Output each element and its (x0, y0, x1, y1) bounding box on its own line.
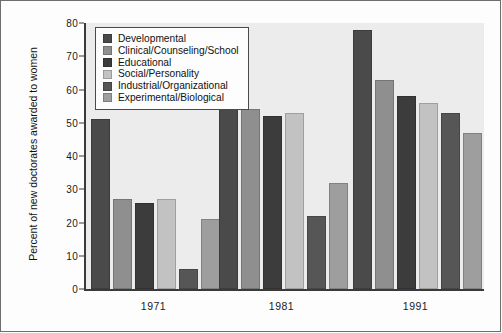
bar-group (353, 23, 482, 289)
bar (397, 96, 416, 289)
bar (179, 269, 198, 289)
legend-swatch-icon (103, 34, 112, 43)
legend: DevelopmentalClinical/Counseling/SchoolE… (95, 27, 249, 110)
y-tick-label: 70 (66, 51, 78, 62)
y-tick-label: 0 (72, 284, 78, 295)
bar (263, 116, 282, 289)
bar (91, 119, 110, 289)
y-tick-label: 50 (66, 117, 78, 128)
y-tick-label: 10 (66, 250, 78, 261)
legend-item: Experimental/Biological (103, 92, 239, 104)
legend-swatch-icon (103, 46, 112, 55)
bar (135, 203, 154, 289)
bar (419, 103, 438, 289)
legend-swatch-icon (103, 82, 112, 91)
y-tick-label: 40 (66, 151, 78, 162)
bar (329, 183, 348, 289)
y-tick-label: 30 (66, 184, 78, 195)
bar (157, 199, 176, 289)
y-tick-label: 20 (66, 217, 78, 228)
legend-label: Industrial/Organizational (118, 80, 228, 92)
bar (241, 109, 260, 289)
bar (113, 199, 132, 289)
legend-swatch-icon (103, 58, 112, 67)
legend-item: Social/Personality (103, 68, 239, 80)
legend-label: Social/Personality (118, 68, 199, 80)
bar (375, 80, 394, 289)
x-axis: 197119811991 (84, 291, 484, 321)
x-tick-label: 1971 (141, 300, 166, 312)
legend-label: Experimental/Biological (118, 92, 224, 104)
y-axis-label: Percent of new doctorates awarded to wom… (27, 29, 39, 279)
y-tick-label: 80 (66, 18, 78, 29)
legend-label: Clinical/Counseling/School (118, 45, 239, 57)
legend-item: Educational (103, 57, 239, 69)
y-tick-label: 60 (66, 84, 78, 95)
bar (201, 219, 220, 289)
legend-item: Industrial/Organizational (103, 80, 239, 92)
bar (307, 216, 326, 289)
bar (353, 30, 372, 289)
legend-swatch-icon (103, 93, 112, 102)
legend-label: Educational (118, 57, 171, 69)
bar (219, 90, 238, 290)
legend-item: Clinical/Counseling/School (103, 45, 239, 57)
bar (441, 113, 460, 289)
bar (463, 133, 482, 289)
bar (285, 113, 304, 289)
x-tick-label: 1981 (269, 300, 294, 312)
x-tick-label: 1991 (403, 300, 428, 312)
y-axis: Percent of new doctorates awarded to wom… (0, 0, 84, 292)
chart-figure: Percent of new doctorates awarded to wom… (0, 0, 502, 333)
legend-swatch-icon (103, 70, 112, 79)
legend-label: Developmental (118, 33, 186, 45)
legend-item: Developmental (103, 33, 239, 45)
